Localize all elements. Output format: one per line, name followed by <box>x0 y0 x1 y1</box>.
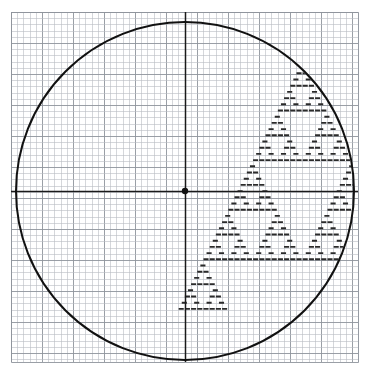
graph-paper-figure-canvas <box>0 0 370 372</box>
figure-root: Sierpinski triangle on graph paper withi… <box>0 0 370 372</box>
